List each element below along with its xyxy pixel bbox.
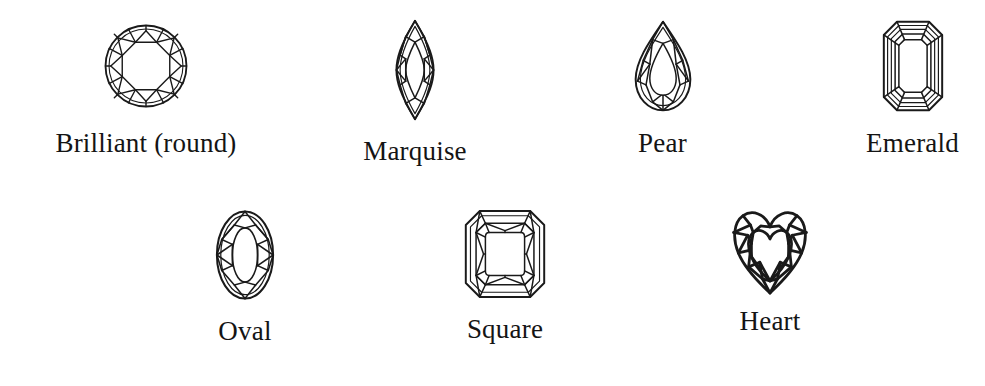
gem-item-square: Square — [425, 208, 585, 343]
gem-label-emerald: Emerald — [866, 130, 959, 157]
gem-item-pear: Pear — [590, 18, 735, 157]
gem-label-heart: Heart — [740, 308, 801, 335]
gem-item-marquise: Marquise — [330, 18, 500, 165]
pear-diamond-icon — [630, 18, 696, 114]
gem-item-heart: Heart — [690, 208, 850, 335]
gem-item-emerald: Emerald — [840, 18, 985, 157]
gem-item-oval: Oval — [170, 208, 320, 345]
oval-diamond-icon — [214, 208, 276, 302]
square-cut-diamond-icon — [463, 208, 547, 300]
round-brilliant-diamond-icon — [102, 18, 190, 114]
emerald-cut-diamond-icon — [881, 18, 945, 114]
diamond-shapes-figure: Brilliant (round) — [0, 0, 985, 386]
gem-label-pear: Pear — [638, 130, 687, 157]
gem-label-oval: Oval — [218, 318, 271, 345]
marquise-diamond-icon — [387, 18, 443, 122]
gem-label-brilliant: Brilliant (round) — [55, 130, 236, 157]
heart-diamond-icon — [730, 208, 810, 296]
gem-item-brilliant: Brilliant (round) — [18, 18, 274, 157]
gem-label-square: Square — [467, 316, 543, 343]
gem-label-marquise: Marquise — [363, 138, 467, 165]
